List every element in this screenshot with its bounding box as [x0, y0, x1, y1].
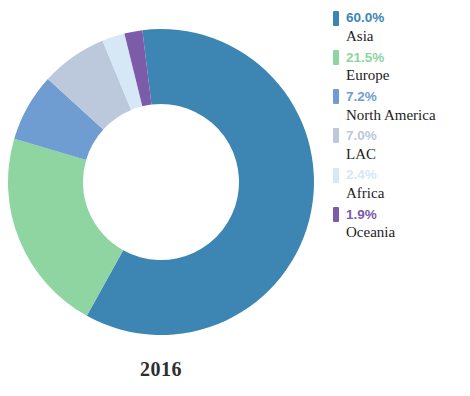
legend-color-swatch: [333, 128, 339, 143]
chart-legend: 60.0%Asia21.5%Europe7.2%North America7.0…: [333, 8, 470, 244]
legend-item: 1.9%Oceania: [333, 204, 470, 241]
year-label: 2016: [0, 358, 322, 381]
legend-value-row: 60.0%: [333, 8, 470, 28]
legend-percent-label: 7.0%: [346, 129, 377, 143]
legend-item: 2.4%Africa: [333, 165, 470, 202]
legend-region-label: Asia: [346, 28, 470, 45]
legend-percent-label: 21.5%: [346, 51, 384, 65]
legend-color-swatch: [333, 207, 339, 222]
chart-page: 2016 60.0%Asia21.5%Europe7.2%North Ameri…: [0, 0, 470, 396]
legend-item: 21.5%Europe: [333, 47, 470, 84]
legend-item: 7.0%LAC: [333, 126, 470, 163]
legend-color-swatch: [333, 50, 339, 65]
legend-percent-label: 60.0%: [346, 11, 384, 25]
legend-percent-label: 7.2%: [346, 90, 377, 104]
donut-chart: [0, 0, 322, 360]
legend-color-swatch: [333, 11, 339, 26]
legend-percent-label: 2.4%: [346, 168, 377, 182]
legend-value-row: 7.0%: [333, 126, 470, 146]
legend-value-row: 21.5%: [333, 47, 470, 67]
legend-region-label: LAC: [346, 146, 470, 163]
legend-region-label: North America: [346, 107, 470, 124]
legend-value-row: 1.9%: [333, 204, 470, 224]
legend-percent-label: 1.9%: [346, 208, 377, 222]
donut-slice-group: [8, 29, 314, 335]
donut-chart-area: 2016: [0, 0, 322, 396]
legend-color-swatch: [333, 168, 339, 183]
legend-region-label: Oceania: [346, 224, 470, 241]
legend-color-swatch: [333, 89, 339, 104]
legend-item: 60.0%Asia: [333, 8, 470, 45]
legend-item: 7.2%North America: [333, 87, 470, 124]
legend-value-row: 2.4%: [333, 165, 470, 185]
legend-region-label: Africa: [346, 185, 470, 202]
legend-value-row: 7.2%: [333, 87, 470, 107]
legend-region-label: Europe: [346, 67, 470, 84]
